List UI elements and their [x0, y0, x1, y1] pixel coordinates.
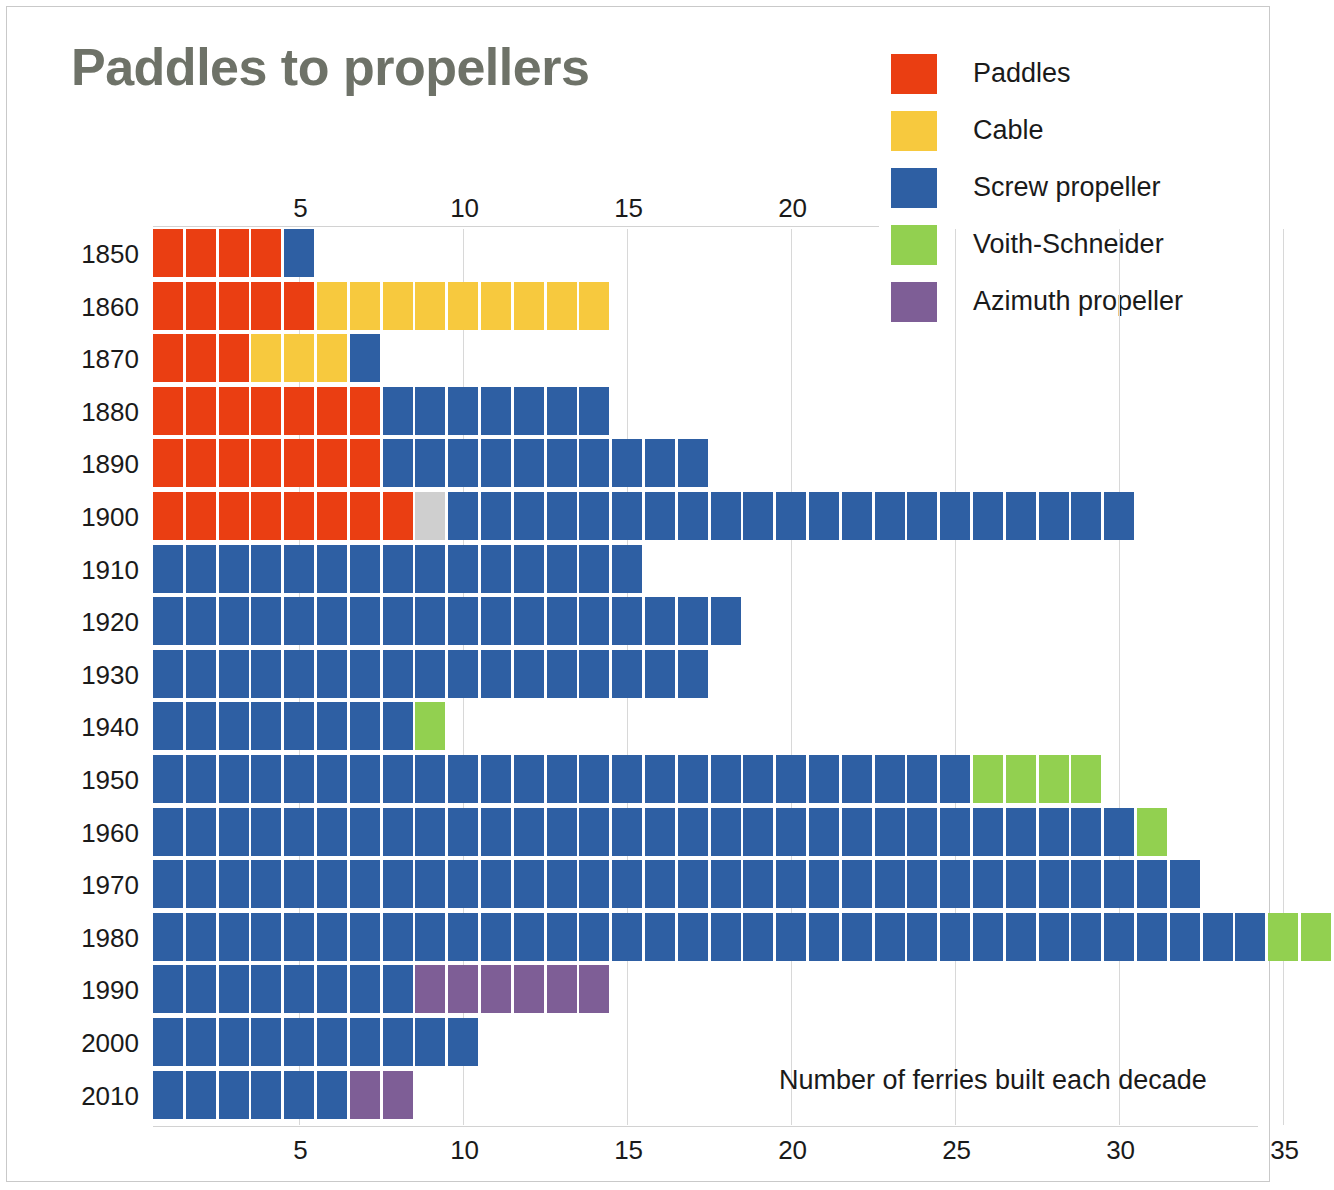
legend-item-paddles[interactable]: Paddles	[891, 45, 1271, 102]
legend-swatch-cable	[891, 111, 937, 151]
waffle-cell-1900-26-screw	[973, 492, 1003, 540]
waffle-row-1970	[153, 860, 1203, 908]
waffle-cell-1860-12-cable	[514, 282, 544, 330]
waffle-cell-1910-11-screw	[481, 545, 511, 593]
legend-label-paddles: Paddles	[973, 58, 1071, 89]
waffle-cell-1920-10-screw	[448, 597, 478, 645]
waffle-cell-1980-9-screw	[415, 913, 445, 961]
waffle-cell-1970-28-screw	[1039, 860, 1069, 908]
waffle-cell-1970-6-screw	[317, 860, 347, 908]
waffle-cell-1960-3-screw	[219, 808, 249, 856]
waffle-cell-1950-25-screw	[940, 755, 970, 803]
waffle-cell-1890-3-paddles	[219, 439, 249, 487]
waffle-cell-1940-6-screw	[317, 702, 347, 750]
waffle-cell-1900-21-screw	[809, 492, 839, 540]
waffle-plot	[153, 229, 1258, 1125]
waffle-cell-2010-4-screw	[251, 1071, 281, 1119]
waffle-cell-1890-12-screw	[514, 439, 544, 487]
waffle-cell-2010-5-screw	[284, 1071, 314, 1119]
waffle-cell-1900-22-screw	[842, 492, 872, 540]
waffle-cell-1950-4-screw	[251, 755, 281, 803]
waffle-cell-1950-28-voith	[1039, 755, 1069, 803]
waffle-cell-1880-5-paddles	[284, 387, 314, 435]
waffle-row-2000	[153, 1018, 481, 1066]
waffle-cell-1970-7-screw	[350, 860, 380, 908]
waffle-cell-1960-16-screw	[645, 808, 675, 856]
waffle-cell-1920-12-screw	[514, 597, 544, 645]
waffle-cell-1930-16-screw	[645, 650, 675, 698]
waffle-row-1880	[153, 387, 612, 435]
waffle-cell-1930-9-screw	[415, 650, 445, 698]
waffle-cell-1980-28-screw	[1039, 913, 1069, 961]
waffle-cell-1980-8-screw	[383, 913, 413, 961]
year-label-1980: 1980	[53, 923, 139, 954]
year-label-1870: 1870	[53, 344, 139, 375]
waffle-cell-1970-18-screw	[711, 860, 741, 908]
waffle-cell-1950-1-screw	[153, 755, 183, 803]
waffle-cell-1880-7-paddles	[350, 387, 380, 435]
legend-item-cable[interactable]: Cable	[891, 102, 1271, 159]
waffle-row-1950	[153, 755, 1104, 803]
legend-swatch-screw	[891, 168, 937, 208]
waffle-cell-1900-1-paddles	[153, 492, 183, 540]
waffle-cell-1860-2-paddles	[186, 282, 216, 330]
waffle-cell-1960-9-screw	[415, 808, 445, 856]
waffle-cell-1920-2-screw	[186, 597, 216, 645]
year-label-1850: 1850	[53, 239, 139, 270]
waffle-cell-1890-15-screw	[612, 439, 642, 487]
waffle-cell-1920-1-screw	[153, 597, 183, 645]
waffle-cell-1960-21-screw	[809, 808, 839, 856]
waffle-cell-2000-7-screw	[350, 1018, 380, 1066]
waffle-cell-1960-20-screw	[776, 808, 806, 856]
waffle-cell-1930-5-screw	[284, 650, 314, 698]
waffle-cell-1980-6-screw	[317, 913, 347, 961]
waffle-row-2010	[153, 1071, 415, 1119]
waffle-cell-1990-14-azimuth	[579, 965, 609, 1013]
waffle-cell-2010-1-screw	[153, 1071, 183, 1119]
waffle-cell-1980-15-screw	[612, 913, 642, 961]
year-label-1990: 1990	[53, 975, 139, 1006]
waffle-cell-1880-13-screw	[547, 387, 577, 435]
waffle-cell-1900-25-screw	[940, 492, 970, 540]
waffle-cell-1970-23-screw	[875, 860, 905, 908]
waffle-cell-1870-1-paddles	[153, 334, 183, 382]
waffle-cell-1920-16-screw	[645, 597, 675, 645]
waffle-cell-1950-2-screw	[186, 755, 216, 803]
waffle-cell-1980-30-screw	[1104, 913, 1134, 961]
waffle-cell-1990-4-screw	[251, 965, 281, 1013]
waffle-cell-1960-14-screw	[579, 808, 609, 856]
waffle-cell-1950-23-screw	[875, 755, 905, 803]
legend-item-screw[interactable]: Screw propeller	[891, 159, 1271, 216]
waffle-cell-1900-14-screw	[579, 492, 609, 540]
waffle-cell-1910-14-screw	[579, 545, 609, 593]
waffle-cell-1970-15-screw	[612, 860, 642, 908]
waffle-cell-1990-7-screw	[350, 965, 380, 1013]
waffle-cell-1950-15-screw	[612, 755, 642, 803]
waffle-cell-1870-4-cable	[251, 334, 281, 382]
waffle-cell-1940-7-screw	[350, 702, 380, 750]
waffle-cell-1860-11-cable	[481, 282, 511, 330]
year-label-1910: 1910	[53, 555, 139, 586]
waffle-cell-1930-4-screw	[251, 650, 281, 698]
year-label-1950: 1950	[53, 765, 139, 796]
year-axis-labels: 1850186018701880189019001910192019301940…	[53, 229, 139, 1125]
waffle-cell-1970-21-screw	[809, 860, 839, 908]
year-label-1860: 1860	[53, 292, 139, 323]
waffle-cell-1920-17-screw	[678, 597, 708, 645]
waffle-cell-1960-30-screw	[1104, 808, 1134, 856]
waffle-cell-1920-18-screw	[711, 597, 741, 645]
waffle-cell-1960-10-screw	[448, 808, 478, 856]
page-title: Paddles to propellers	[71, 37, 589, 97]
waffle-row-1920	[153, 597, 743, 645]
waffle-cell-1960-27-screw	[1006, 808, 1036, 856]
waffle-cell-1910-15-screw	[612, 545, 642, 593]
waffle-cell-1910-10-screw	[448, 545, 478, 593]
waffle-cell-1980-34-screw	[1235, 913, 1265, 961]
legend-swatch-paddles	[891, 54, 937, 94]
axis-top-tick-5: 5	[293, 193, 307, 224]
waffle-cell-1910-1-screw	[153, 545, 183, 593]
waffle-cell-1900-3-paddles	[219, 492, 249, 540]
waffle-cell-1980-20-screw	[776, 913, 806, 961]
waffle-cell-1970-20-screw	[776, 860, 806, 908]
waffle-cell-1950-12-screw	[514, 755, 544, 803]
